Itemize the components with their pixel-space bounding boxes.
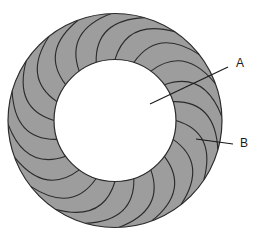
callout-a-label: A: [236, 56, 244, 70]
ring-diagram: A B: [0, 0, 257, 234]
annular-ring-shape: [8, 13, 222, 227]
figure-canvas: A B: [0, 0, 257, 234]
ring-body: [8, 13, 222, 227]
inner-circle: [54, 60, 176, 182]
callout-b-label: B: [240, 136, 248, 150]
